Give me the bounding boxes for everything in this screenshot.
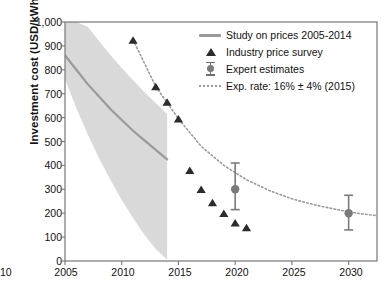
dotted-line-icon (197, 78, 223, 94)
industry-survey-point (219, 209, 228, 217)
legend-item-industry-survey: Industry price survey (197, 43, 375, 60)
legend-item-exp-rate: Exp. rate: 16% ± 4% (2015) (197, 77, 375, 94)
investment-cost-chart: Investment cost (USD/kWhcap) 1,000 900 8… (0, 0, 391, 297)
triangle-marker-icon (197, 44, 223, 60)
industry-survey-point (197, 186, 206, 194)
industry-survey-point (174, 115, 183, 123)
chart-legend: Study on prices 2005-2014 Industry price… (197, 26, 375, 94)
legend-label: Study on prices 2005-2014 (223, 29, 352, 41)
industry-survey-point (185, 166, 194, 174)
industry-survey-point (163, 98, 172, 106)
industry-survey-point (231, 219, 240, 227)
legend-item-expert-estimates: Expert estimates (197, 60, 375, 77)
expert-estimate-point (231, 185, 239, 193)
legend-item-study: Study on prices 2005-2014 (197, 26, 375, 43)
industry-survey-point (151, 83, 160, 91)
solid-line-icon (197, 27, 223, 43)
legend-label: Expert estimates (223, 63, 304, 75)
legend-label: Industry price survey (223, 46, 323, 58)
industry-survey-point (208, 199, 217, 207)
expert-estimate-point (344, 209, 352, 217)
industry-survey-point (242, 224, 251, 232)
legend-label: Exp. rate: 16% ± 4% (2015) (223, 80, 355, 92)
errorbar-marker-icon (197, 61, 223, 77)
industry-survey-point (128, 36, 137, 44)
study-uncertainty-band (65, 22, 167, 260)
